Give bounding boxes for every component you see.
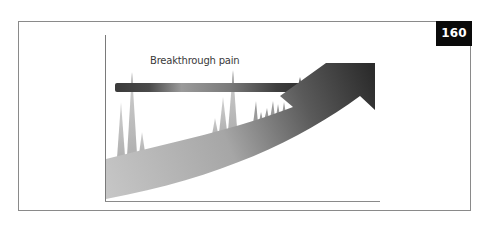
pain-spike [219, 97, 227, 133]
figure-number-badge: 160 [436, 21, 472, 46]
breakthrough-pain-diagram [0, 0, 490, 226]
pain-spike-tip [232, 70, 234, 83]
pain-spike [117, 102, 125, 158]
breakthrough-pain-bar [115, 83, 305, 92]
pain-spike-tip [131, 72, 133, 83]
breakthrough-pain-label: Breakthrough pain [150, 55, 240, 66]
